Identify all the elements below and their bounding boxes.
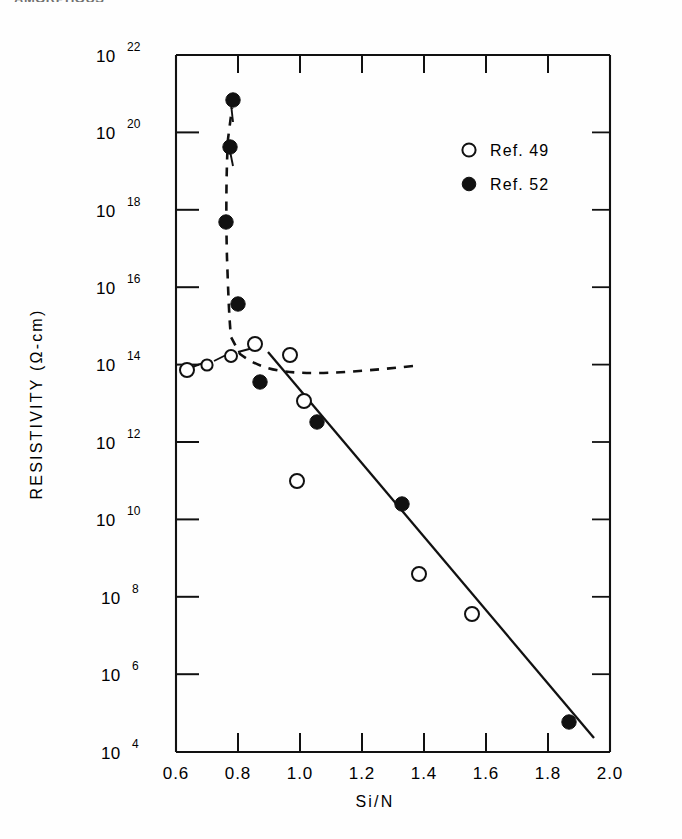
y-tick-label: 108	[101, 582, 139, 608]
svg-text:10: 10	[96, 47, 115, 66]
plot-frame	[176, 55, 610, 752]
data-point-open[interactable]	[201, 359, 212, 370]
svg-text:10: 10	[127, 504, 141, 518]
data-point-filled[interactable]	[562, 715, 576, 729]
data-point-filled[interactable]	[226, 93, 240, 107]
dashed-transition-curve	[226, 108, 413, 373]
y-tick-label: 104	[101, 737, 139, 763]
x-axis-title: Si/N	[355, 793, 394, 810]
data-point-open[interactable]	[225, 350, 237, 362]
y-tick-label: 1016	[96, 272, 141, 298]
data-point-filled[interactable]	[231, 297, 245, 311]
y-tick-label: 1020	[96, 117, 141, 143]
svg-text:4: 4	[132, 737, 139, 751]
y-tick-label: 1012	[96, 427, 141, 453]
data-point-open[interactable]	[248, 337, 262, 351]
x-tick-label: 1.2	[349, 764, 376, 783]
x-tick-label: 2.0	[597, 764, 624, 783]
y-tick-label: 1010	[96, 504, 141, 530]
data-point-open[interactable]	[412, 567, 426, 581]
x-tick-label: 0.8	[225, 764, 252, 783]
svg-text:18: 18	[127, 195, 141, 209]
svg-text:10: 10	[96, 434, 115, 453]
figure-root: AMORPHOUS	[0, 0, 682, 839]
svg-text:16: 16	[127, 272, 141, 286]
data-point-open[interactable]	[290, 474, 304, 488]
y-tick-label: 1014	[96, 349, 141, 375]
x-tick-label: 1.6	[473, 764, 500, 783]
legend-marker-filled-circle-icon	[462, 177, 476, 191]
data-point-open[interactable]	[297, 394, 311, 408]
data-point-filled[interactable]	[310, 415, 324, 429]
svg-text:10: 10	[96, 202, 115, 221]
x-axis-tick-labels: 0.6 0.8 1.0 1.2 1.4 1.6 1.8 2.0	[163, 764, 624, 783]
data-point-filled[interactable]	[219, 215, 233, 229]
y-axis-ticks-left	[176, 132, 199, 674]
x-tick-label: 0.6	[163, 764, 190, 783]
solid-fit-line	[268, 352, 594, 738]
data-point-filled[interactable]	[223, 140, 237, 154]
y-axis-tick-labels: 1022 1020 1018 1016 1014 1012 1010 108 1…	[96, 40, 141, 763]
legend-item-ref52[interactable]: Ref. 52	[462, 176, 549, 193]
data-point-open[interactable]	[180, 363, 194, 377]
svg-text:10: 10	[101, 744, 120, 763]
svg-text:14: 14	[127, 349, 141, 363]
svg-text:10: 10	[96, 511, 115, 530]
svg-text:6: 6	[132, 659, 139, 673]
resistivity-vs-si-n-chart: 1022 1020 1018 1016 1014 1012 1010 108 1…	[0, 0, 682, 839]
y-axis-title: RESISTIVITY (Ω-cm)	[28, 309, 45, 500]
svg-text:10: 10	[101, 666, 120, 685]
ref49-connector-segments	[187, 348, 253, 369]
svg-text:22: 22	[127, 40, 141, 54]
x-tick-label: 1.4	[411, 764, 438, 783]
y-tick-label: 1018	[96, 195, 141, 221]
chart-svg: 1022 1020 1018 1016 1014 1012 1010 108 1…	[0, 0, 682, 839]
legend-item-ref49[interactable]: Ref. 49	[462, 142, 549, 159]
legend-label: Ref. 52	[490, 176, 549, 193]
svg-text:20: 20	[127, 117, 141, 131]
y-tick-label: 106	[101, 659, 139, 685]
x-axis-ticks-top	[238, 55, 548, 73]
svg-text:8: 8	[132, 582, 139, 596]
y-tick-label: 1022	[96, 40, 141, 66]
svg-text:12: 12	[127, 427, 141, 441]
series-ref49-points	[180, 337, 479, 621]
svg-text:10: 10	[96, 279, 115, 298]
chart-legend: Ref. 49 Ref. 52	[462, 142, 549, 193]
data-point-filled[interactable]	[395, 497, 409, 511]
data-point-open[interactable]	[283, 348, 297, 362]
x-axis-ticks-bottom	[238, 733, 548, 752]
legend-marker-open-circle-icon	[462, 143, 475, 156]
svg-text:10: 10	[96, 356, 115, 375]
data-point-filled[interactable]	[253, 375, 267, 389]
legend-label: Ref. 49	[490, 142, 549, 159]
x-tick-label: 1.0	[287, 764, 314, 783]
svg-text:10: 10	[96, 124, 115, 143]
svg-text:10: 10	[101, 589, 120, 608]
y-axis-ticks-right	[592, 132, 610, 674]
x-tick-label: 1.8	[535, 764, 562, 783]
data-point-open[interactable]	[465, 607, 479, 621]
